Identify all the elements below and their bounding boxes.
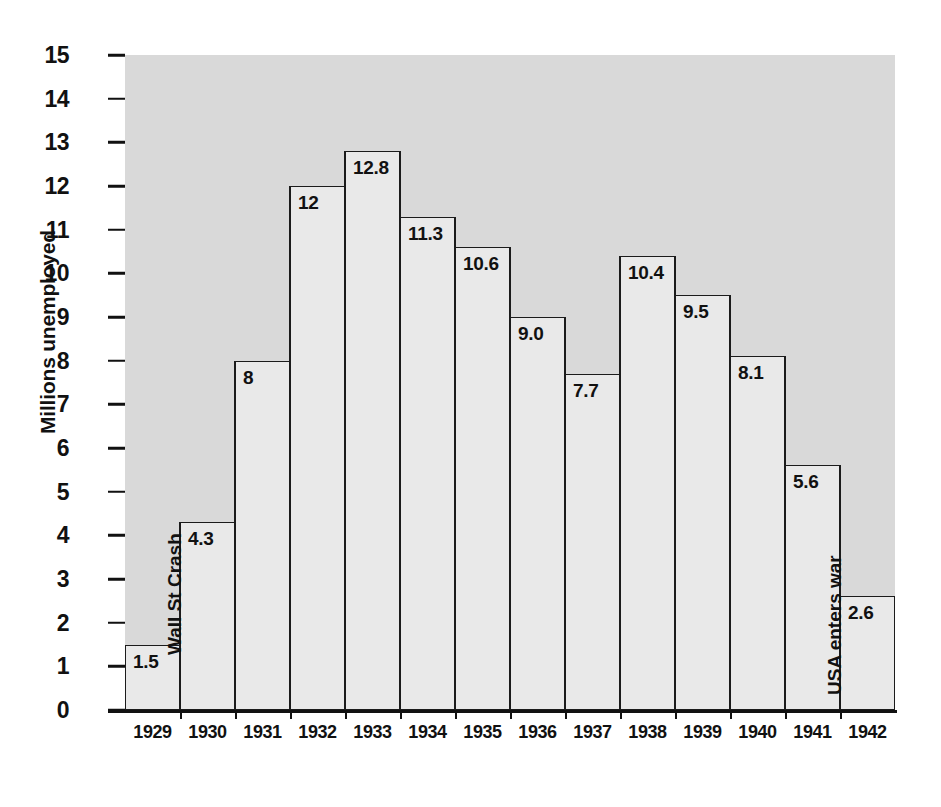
plot-area: Hoover president Roosevelt president 1.5…	[125, 55, 895, 710]
x-tick-mark	[455, 710, 457, 719]
bar-value-label: 10.6	[463, 253, 499, 275]
bar[interactable]: 9.0	[510, 317, 565, 710]
x-tick-label: 1933	[343, 722, 403, 743]
y-tick-mark	[108, 490, 125, 493]
y-tick-mark	[108, 359, 125, 362]
y-tick-label: 13	[25, 129, 69, 156]
x-tick-label: 1941	[783, 722, 843, 743]
x-tick-mark	[840, 710, 842, 719]
y-tick-mark	[108, 185, 125, 188]
x-tick-mark	[675, 710, 677, 719]
y-tick-label: 14	[25, 85, 69, 112]
bar-value-label: 7.7	[573, 380, 599, 402]
y-tick-label: 0	[25, 697, 69, 724]
bar-value-label: 8.1	[738, 362, 764, 384]
x-tick-label: 1934	[398, 722, 458, 743]
bar[interactable]: 8	[235, 361, 290, 710]
y-tick-label: 3	[25, 566, 69, 593]
y-tick-mark	[108, 665, 125, 668]
bar-value-label: 12	[298, 192, 319, 214]
y-tick-label: 2	[25, 609, 69, 636]
x-tick-mark	[565, 710, 567, 719]
bar[interactable]: 11.3	[400, 217, 455, 710]
y-tick-label: 7	[25, 391, 69, 418]
bar[interactable]: 4.3	[180, 522, 235, 710]
y-axis-ticks: 1514131211109876543210	[0, 0, 125, 807]
column-rule	[509, 247, 511, 710]
column-rule	[454, 217, 456, 710]
x-tick-label: 1932	[288, 722, 348, 743]
x-tick-mark	[235, 710, 237, 719]
y-tick-label: 12	[25, 173, 69, 200]
unemployment-bar-chart: Millions unemployed 15141312111098765432…	[0, 0, 941, 807]
x-tick-label: 1931	[233, 722, 293, 743]
bar[interactable]: 8.1	[730, 356, 785, 710]
y-tick-mark	[108, 228, 125, 231]
y-tick-mark	[108, 97, 125, 100]
y-tick-label: 10	[25, 260, 69, 287]
x-tick-mark	[400, 710, 402, 719]
y-tick-mark	[108, 54, 125, 57]
x-tick-label: 1942	[838, 722, 898, 743]
y-tick-mark	[108, 534, 125, 537]
bar-value-label: 5.6	[793, 471, 819, 493]
bar[interactable]: 2.6	[840, 596, 895, 710]
bar[interactable]: 12.8	[345, 151, 400, 710]
y-tick-mark	[108, 141, 125, 144]
column-rule	[399, 151, 401, 710]
y-tick-mark	[108, 447, 125, 450]
bar-value-label: 9.5	[683, 301, 709, 323]
column-rule	[784, 356, 786, 710]
y-tick-mark	[108, 578, 125, 581]
bar-value-label: 1.5	[133, 651, 159, 673]
x-tick-label: 1935	[453, 722, 513, 743]
column-rule	[564, 317, 566, 710]
x-tick-label: 1938	[618, 722, 678, 743]
bar-value-label: 12.8	[353, 157, 389, 179]
annotation-usa-enters-war: USA enters war	[824, 555, 846, 695]
x-tick-label: 1940	[728, 722, 788, 743]
x-tick-mark	[290, 710, 292, 719]
x-tick-mark	[345, 710, 347, 719]
x-tick-mark	[620, 710, 622, 719]
bar[interactable]: 10.4	[620, 256, 675, 710]
y-tick-label: 11	[25, 216, 69, 243]
x-axis-line	[108, 710, 897, 713]
y-tick-label: 15	[25, 42, 69, 69]
y-tick-label: 5	[25, 478, 69, 505]
x-tick-mark	[180, 710, 182, 719]
annotation-wall-st-crash: Wall St Crash	[164, 534, 186, 656]
x-tick-label: 1936	[508, 722, 568, 743]
bar-value-label: 8	[243, 367, 253, 389]
y-tick-mark	[108, 621, 125, 624]
bar-value-label: 2.6	[848, 602, 874, 624]
y-tick-mark	[108, 316, 125, 319]
x-tick-label: 1937	[563, 722, 623, 743]
bar[interactable]: 10.6	[455, 247, 510, 710]
x-tick-mark	[730, 710, 732, 719]
x-tick-mark	[510, 710, 512, 719]
bar[interactable]: 7.7	[565, 374, 620, 710]
x-tick-label: 1930	[178, 722, 238, 743]
column-rule	[674, 256, 676, 710]
column-rule	[619, 256, 621, 710]
column-rule	[344, 151, 346, 710]
y-tick-label: 6	[25, 435, 69, 462]
bar-value-label: 4.3	[188, 528, 214, 550]
y-tick-label: 9	[25, 304, 69, 331]
column-rule	[729, 295, 731, 710]
column-rule	[289, 186, 291, 710]
x-tick-label: 1939	[673, 722, 733, 743]
y-tick-mark	[108, 272, 125, 275]
y-tick-mark	[108, 403, 125, 406]
x-tick-mark	[785, 710, 787, 719]
bar-value-label: 9.0	[518, 323, 544, 345]
bar[interactable]: 9.5	[675, 295, 730, 710]
y-tick-label: 4	[25, 522, 69, 549]
bar-value-label: 10.4	[628, 262, 664, 284]
x-tick-label: 1929	[123, 722, 183, 743]
y-tick-label: 8	[25, 347, 69, 374]
bar-value-label: 11.3	[408, 223, 443, 245]
bar[interactable]: 12	[290, 186, 345, 710]
column-rule	[234, 361, 236, 710]
